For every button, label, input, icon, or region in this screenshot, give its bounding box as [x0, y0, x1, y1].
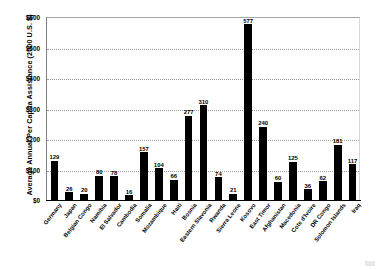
bar-value-label: 310 — [199, 99, 209, 105]
bar — [244, 24, 252, 200]
bar-group: 157 — [140, 17, 148, 200]
x-axis-labels: GermanyJapanBelgian CongoNamibiaEl Salva… — [47, 202, 360, 268]
bar-value-label: 125 — [288, 155, 298, 161]
bar-value-label: 74 — [215, 171, 222, 177]
bar — [125, 195, 133, 200]
bar — [95, 176, 103, 200]
bar — [185, 116, 193, 200]
bar-value-label: 21 — [230, 187, 237, 193]
bar-group: 117 — [349, 17, 357, 200]
y-tick-label: $400 — [6, 75, 40, 82]
bar-value-label: 66 — [170, 173, 177, 179]
bar-group: 36 — [304, 17, 312, 200]
x-tick-label-text: Haiti — [170, 202, 183, 216]
bar-chart: Average Annual Per Capita Assistance (20… — [0, 0, 381, 270]
bar-value-label: 129 — [50, 154, 60, 160]
x-tick-label: Iraq — [350, 202, 361, 214]
bar — [155, 168, 163, 200]
y-tick-label: $100 — [6, 167, 40, 174]
bar-value-label: 20 — [81, 187, 88, 193]
bars-layer: 1292620807816157104662773107421577240601… — [47, 17, 360, 200]
bar-value-label: 36 — [305, 183, 312, 189]
bar — [110, 176, 118, 200]
bar-value-label: 80 — [96, 169, 103, 175]
bar-value-label: 277 — [184, 109, 194, 115]
bar — [259, 127, 267, 200]
bar-value-label: 157 — [139, 146, 149, 152]
bar — [289, 162, 297, 200]
y-tick-label: $0 — [6, 197, 40, 204]
bar — [65, 192, 73, 200]
bar — [304, 189, 312, 200]
y-tick-label: $500 — [6, 45, 40, 52]
x-tick-label: Haiti — [170, 202, 183, 216]
bar-group: 129 — [51, 17, 59, 200]
bar-value-label: 26 — [66, 186, 73, 192]
bar-value-label: 104 — [154, 162, 164, 168]
bar-value-label: 117 — [348, 158, 358, 164]
bar-group: 181 — [334, 17, 342, 200]
bar — [274, 182, 282, 200]
bar-value-label: 181 — [333, 138, 343, 144]
bar — [170, 180, 178, 200]
bar-group: 310 — [200, 17, 208, 200]
bar-group: 80 — [95, 17, 103, 200]
bar-group: 26 — [65, 17, 73, 200]
bar-value-label: 240 — [258, 120, 268, 126]
bar — [229, 194, 237, 200]
bar-group: 62 — [319, 17, 327, 200]
bar-value-label: 60 — [275, 175, 282, 181]
bar — [51, 161, 59, 200]
bar-group: 60 — [274, 17, 282, 200]
bar-group: 66 — [170, 17, 178, 200]
x-tick-label-text: Iraq — [350, 202, 361, 214]
bar-value-label: 577 — [243, 18, 253, 24]
bar-value-label: 16 — [126, 189, 133, 195]
bar-group: 277 — [185, 17, 193, 200]
bar-value-label: 78 — [111, 170, 118, 176]
bar-group: 20 — [80, 17, 88, 200]
bar-group: 78 — [110, 17, 118, 200]
y-tick-label: $600 — [6, 14, 40, 21]
bar — [80, 194, 88, 200]
bar — [200, 105, 208, 200]
y-tick-label: $300 — [6, 106, 40, 113]
bar-group: 125 — [289, 17, 297, 200]
bar — [319, 181, 327, 200]
bar-value-label: 62 — [319, 175, 326, 181]
bar-group: 240 — [259, 17, 267, 200]
y-tick-label: $200 — [6, 136, 40, 143]
bar — [334, 145, 342, 200]
corner-artifact — [365, 261, 375, 266]
bar-group: 74 — [215, 17, 223, 200]
bar-group: 104 — [155, 17, 163, 200]
bar — [215, 177, 223, 200]
bar — [140, 152, 148, 200]
bar-group: 21 — [229, 17, 237, 200]
bar-group: 577 — [244, 17, 252, 200]
bar-group: 16 — [125, 17, 133, 200]
bar — [349, 164, 357, 200]
